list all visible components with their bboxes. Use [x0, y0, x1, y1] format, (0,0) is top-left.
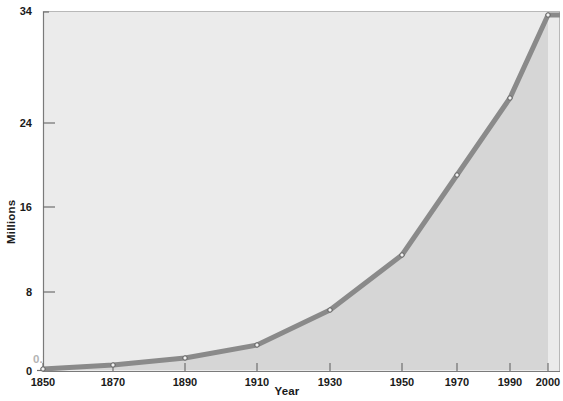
area-chart-plot [0, 0, 563, 401]
data-point-1970 [455, 173, 459, 177]
data-point-1910 [255, 343, 259, 347]
chart-container: Millions 0 8 16 24 34 1850 1870 1890 191… [0, 0, 563, 401]
data-point-1990 [508, 96, 512, 100]
data-point-1930 [328, 308, 332, 312]
data-point-1850 [41, 367, 45, 371]
data-point-1870 [111, 363, 115, 367]
data-point-1950 [400, 253, 404, 257]
data-point-2000 [546, 13, 550, 17]
data-point-1890 [183, 356, 187, 360]
